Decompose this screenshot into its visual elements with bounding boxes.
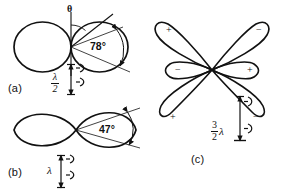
panel-c-label: (c) [191, 154, 204, 165]
panel-b-beamwidth-label: 47° [99, 124, 115, 135]
panel-c-spacing-symbol: λ [219, 125, 224, 137]
panel-c-sign-middle-right: + [247, 64, 253, 75]
panel-a-spacing-numerator: λ [52, 72, 58, 82]
panel-a-beamwidth-label: 78° [90, 41, 106, 52]
panel-b-spacing-label: λ [47, 165, 52, 176]
panel-b-element-lower [66, 171, 74, 179]
panel-c-sign-lower-left: + [170, 111, 176, 122]
panel-c-sign-middle-left: − [175, 64, 181, 75]
panel-a-theta-symbol: θ [67, 4, 72, 14]
panel-c-sign-upper-left: + [166, 24, 172, 35]
panel-c-spacing-fraction: 3 2 λ [211, 120, 224, 142]
figure-artwork [0, 0, 285, 196]
antenna-pattern-figure: θ 78° λ 2 (a) 47° λ (b) + − − + + − 3 2 … [0, 0, 285, 196]
panel-a-spacing-denominator: 2 [52, 84, 59, 94]
panel-c-element-lower [244, 124, 252, 133]
panel-b-element-upper [66, 155, 74, 163]
panel-a-spacing-fraction: λ 2 [51, 72, 59, 94]
panel-b-artwork [14, 108, 140, 188]
panel-a-left-lobe [14, 22, 71, 72]
panel-b-left-lobe [14, 114, 76, 146]
panel-c-lobe-lower-left [160, 70, 212, 116]
panel-a-element-lower [76, 78, 84, 86]
panel-c-sign-upper-right: − [256, 24, 262, 35]
panel-b-label: (b) [8, 167, 22, 178]
panel-a-label: (a) [8, 83, 22, 94]
panel-a-artwork [14, 12, 130, 95]
panel-c-lobe-middle-left [166, 62, 213, 79]
panel-c-sign-lower-right: − [253, 111, 259, 122]
panel-c-lobe-lower-right [212, 70, 264, 116]
panel-c-spacing-numerator: 3 [212, 120, 217, 130]
panel-c-spacing-denominator: 2 [212, 132, 217, 142]
panel-a-beamwidth-arc [117, 30, 124, 67]
